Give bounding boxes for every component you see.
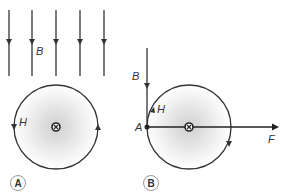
panel-a-label: A — [14, 178, 21, 189]
panel-b-point-label: A — [134, 121, 142, 133]
panel-b-label: B — [147, 178, 154, 189]
panel-b-force-arrowhead — [272, 124, 279, 131]
panel-b-current-into-page-icon — [185, 123, 193, 131]
panel-a-field-label: B — [36, 45, 43, 57]
panel-b-circle-label: H — [157, 103, 165, 115]
panel-b-field-label: B — [132, 70, 139, 82]
panel-b-field-arrow — [144, 83, 150, 89]
panel-a-circle-label: H — [19, 116, 27, 128]
panel-b-force-label: F — [268, 133, 276, 145]
panel-b-point-a — [145, 125, 150, 130]
diagram: B H A B H A F B — [0, 0, 281, 196]
panel-a-current-into-page-icon — [52, 123, 60, 131]
